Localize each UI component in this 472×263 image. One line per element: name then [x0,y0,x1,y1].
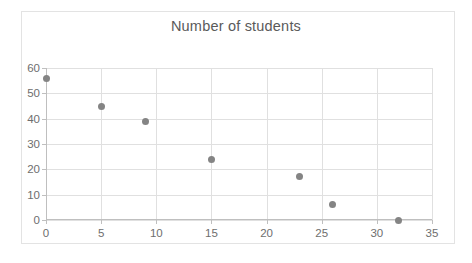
x-axis-tick-mark [101,220,102,224]
x-axis-tick-mark [322,220,323,224]
y-axis-tick-mark [42,169,46,170]
gridline-horizontal [46,144,432,145]
y-axis-line [46,68,47,220]
y-axis-tick-label: 0 [34,214,40,226]
x-axis-tick-mark [377,220,378,224]
scatter-point [43,75,50,82]
scatter-point [296,173,303,180]
scatter-point [142,118,149,125]
x-axis-tick-label: 30 [370,227,383,239]
x-axis-tick-mark [211,220,212,224]
y-axis-tick-label: 30 [27,138,40,150]
gridline-horizontal [46,220,432,221]
x-axis-tick-mark [267,220,268,224]
x-axis-tick-mark [156,220,157,224]
y-axis-tick-label: 10 [27,189,40,201]
gridline-vertical [322,68,323,220]
gridline-horizontal [46,169,432,170]
gridline-horizontal [46,68,432,69]
y-axis-tick-labels: 0102030405060 [0,68,40,220]
x-axis-tick-label: 10 [150,227,163,239]
y-axis-tick-label: 40 [27,113,40,125]
gridline-vertical [432,68,433,220]
y-axis-tick-mark [42,93,46,94]
gridline-vertical [211,68,212,220]
y-axis-tick-mark [42,68,46,69]
scatter-point [208,156,215,163]
x-axis-tick-label: 5 [98,227,104,239]
gridline-horizontal [46,119,432,120]
gridline-horizontal [46,195,432,196]
scatter-point [98,103,105,110]
chart-figure: Number of students 0102030405060 0510152… [0,0,472,263]
chart-title: Number of students [0,18,472,34]
x-axis-tick-label: 15 [205,227,218,239]
y-axis-tick-mark [42,195,46,196]
gridline-vertical [377,68,378,220]
plot-area [46,68,432,220]
y-axis-tick-label: 60 [27,62,40,74]
gridline-vertical [101,68,102,220]
y-axis-tick-mark [42,220,46,221]
x-axis-tick-label: 25 [315,227,328,239]
y-axis-tick-label: 50 [27,87,40,99]
x-axis-tick-labels: 05101520253035 [46,227,432,243]
x-axis-line [46,219,432,220]
y-axis-tick-mark [42,119,46,120]
scatter-point [329,201,336,208]
gridline-horizontal [46,93,432,94]
x-axis-tick-label: 0 [43,227,49,239]
gridline-vertical [267,68,268,220]
y-axis-tick-label: 20 [27,163,40,175]
x-axis-tick-mark [432,220,433,224]
gridline-vertical [156,68,157,220]
y-axis-tick-mark [42,144,46,145]
x-axis-tick-label: 20 [260,227,273,239]
x-axis-tick-label: 35 [426,227,439,239]
x-axis-tick-mark [46,220,47,224]
scatter-point [395,217,402,224]
